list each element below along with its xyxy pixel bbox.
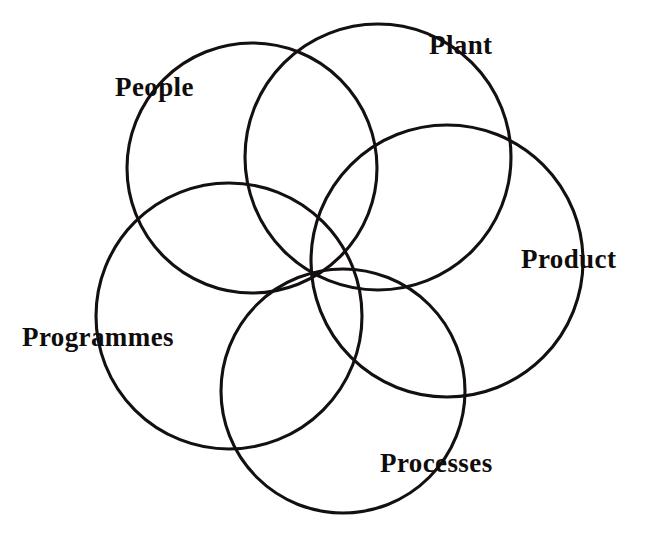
- label-plant: Plant: [429, 32, 493, 59]
- label-programmes: Programmes: [22, 324, 174, 351]
- label-processes: Processes: [380, 450, 493, 477]
- venn-diagram: People Plant Product Programmes Processe…: [0, 0, 648, 536]
- label-product: Product: [521, 246, 616, 273]
- label-people: People: [115, 74, 194, 101]
